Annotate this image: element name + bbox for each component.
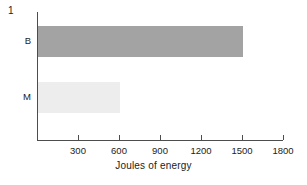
x-tick-300 <box>78 135 79 140</box>
x-tick-label-1500: 1500 <box>231 145 252 156</box>
bar-b <box>38 26 243 57</box>
x-axis-line <box>37 140 283 141</box>
x-tick-900 <box>160 135 161 140</box>
bar-m <box>38 82 120 113</box>
bar-chart-figure: 1 B M 300600900120015001800 Joules of en… <box>0 0 307 185</box>
x-axis-title: Joules of energy <box>0 160 307 172</box>
x-tick-label-600: 600 <box>111 145 127 156</box>
x-tick-label-300: 300 <box>70 145 86 156</box>
x-tick-1200 <box>201 135 202 140</box>
x-tick-1500 <box>242 135 243 140</box>
x-tick-label-900: 900 <box>152 145 168 156</box>
y-tick-label-b: B <box>25 35 31 46</box>
x-tick-label-1200: 1200 <box>190 145 211 156</box>
y-axis-label-column: B M <box>0 0 37 185</box>
x-tick-600 <box>119 135 120 140</box>
plot-area: 300600900120015001800 <box>37 12 283 140</box>
x-tick-label-1800: 1800 <box>272 145 293 156</box>
x-tick-1800 <box>283 135 284 140</box>
y-tick-label-m: M <box>23 91 31 102</box>
x-tick-0 <box>37 135 38 140</box>
